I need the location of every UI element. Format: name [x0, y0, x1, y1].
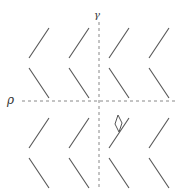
diagram-canvas [0, 0, 192, 189]
chevron [29, 68, 49, 98]
chevron [149, 68, 169, 98]
chevron [29, 158, 49, 188]
chevron [149, 158, 169, 188]
chevron [69, 68, 89, 98]
rho-label: ρ [7, 93, 14, 107]
chevron [109, 28, 129, 58]
chevron [69, 28, 89, 58]
chevron [109, 68, 129, 98]
gamma-label: γ [94, 9, 100, 20]
chevron-row-upper [29, 28, 169, 98]
chevron [69, 118, 89, 148]
chevron [29, 118, 49, 148]
chevron [109, 158, 129, 188]
chevron-row-lower [29, 118, 169, 188]
chevron [69, 158, 89, 188]
chevron [149, 28, 169, 58]
chevron [29, 28, 49, 58]
chevron [149, 118, 169, 148]
